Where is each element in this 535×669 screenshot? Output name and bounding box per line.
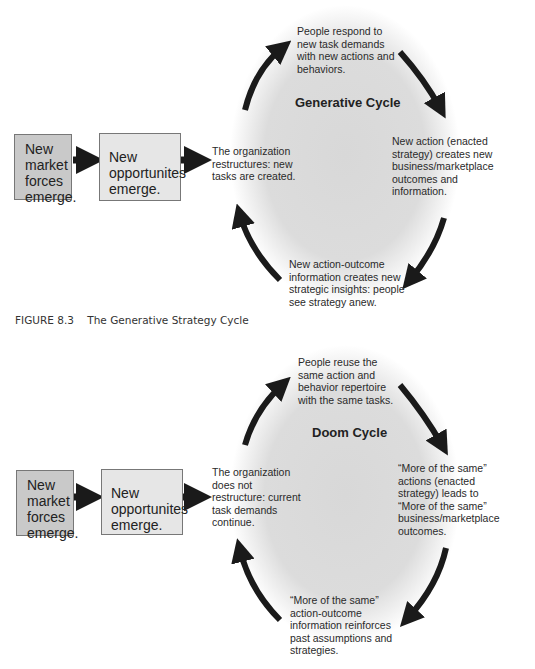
text-line: see strategy anew. [289, 296, 405, 309]
text-line: information reinforces [290, 619, 392, 632]
box-line: market [27, 493, 73, 509]
text-line: continue. [212, 516, 301, 529]
box-line: opportunites [111, 501, 182, 517]
bottom-step-text: “More of the same” action-outcome inform… [290, 594, 392, 657]
text-line: outcomes. [398, 525, 500, 538]
text-line: same action and [298, 369, 393, 382]
text-line: strategy) creates new [392, 148, 494, 161]
doom-cycle-figure: New market forces emerge. New opportunit… [0, 340, 535, 669]
figure-caption: FIGURE 8.3 The Generative Strategy Cycle [15, 314, 249, 326]
right-step-text: “More of the same” actions (enacted stra… [398, 462, 500, 537]
text-line: behaviors. [297, 63, 394, 76]
top-step-text: People respond to new task demands with … [297, 25, 394, 75]
market-forces-box: New market forces emerge. [14, 134, 72, 200]
text-line: does not [212, 479, 301, 492]
box-line: market [25, 157, 71, 173]
box-line: forces [25, 173, 71, 189]
text-line: information creates new [289, 271, 405, 284]
text-line: new task demands [297, 38, 394, 51]
text-line: strategic insights: people [289, 283, 405, 296]
text-line: People reuse the [298, 356, 393, 369]
text-line: “More of the same” [398, 500, 500, 513]
figure-caption-text: The Generative Strategy Cycle [87, 314, 248, 326]
box-line: opportunites [109, 165, 180, 181]
text-line: information. [392, 185, 494, 198]
text-line: strategy) leads to [398, 487, 500, 500]
text-line: actions (enacted [398, 475, 500, 488]
box-line: emerge. [25, 189, 71, 205]
text-line: task demands [212, 504, 301, 517]
text-line: “More of the same” [290, 594, 392, 607]
bottom-step-text: New action-outcome information creates n… [289, 258, 405, 308]
generative-cycle-figure: New market forces emerge. New opportunit… [0, 0, 535, 300]
box-line: New [27, 477, 73, 493]
cycle-title: Generative Cycle [295, 95, 401, 110]
text-line: “More of the same” [398, 462, 500, 475]
box-line: New [25, 141, 71, 157]
box-line: forces [27, 509, 73, 525]
box-line: emerge. [111, 517, 182, 533]
text-line: strategies. [290, 644, 392, 657]
box-line: emerge. [27, 525, 73, 541]
text-line: People respond to [297, 25, 394, 38]
text-line: past assumptions and [290, 632, 392, 645]
opportunities-box: New opportunites emerge. [99, 133, 181, 201]
box-line: New [111, 485, 182, 501]
text-line: restructure: current [212, 491, 301, 504]
text-line: with new actions and [297, 50, 394, 63]
text-line: restructures: new [212, 158, 295, 171]
box-line: New [109, 149, 180, 165]
text-line: The organization [212, 145, 295, 158]
left-step-text: The organization restructures: new tasks… [212, 145, 295, 183]
text-line: business/marketplace [398, 512, 500, 525]
right-step-text: New action (enacted strategy) creates ne… [392, 135, 494, 198]
top-step-text: People reuse the same action and behavio… [298, 356, 393, 406]
market-forces-box: New market forces emerge. [16, 470, 74, 536]
figure-number: FIGURE 8.3 [15, 314, 74, 326]
left-step-text: The organization does not restructure: c… [212, 466, 301, 529]
text-line: action-outcome [290, 607, 392, 620]
text-line: business/marketplace [392, 160, 494, 173]
text-line: New action (enacted [392, 135, 494, 148]
text-line: tasks are created. [212, 170, 295, 183]
box-line: emerge. [109, 181, 180, 197]
text-line: New action-outcome [289, 258, 405, 271]
cycle-title: Doom Cycle [312, 425, 387, 440]
text-line: The organization [212, 466, 301, 479]
text-line: with the same tasks. [298, 394, 393, 407]
text-line: outcomes and [392, 173, 494, 186]
opportunities-box: New opportunites emerge. [101, 469, 183, 535]
text-line: behavior repertoire [298, 381, 393, 394]
